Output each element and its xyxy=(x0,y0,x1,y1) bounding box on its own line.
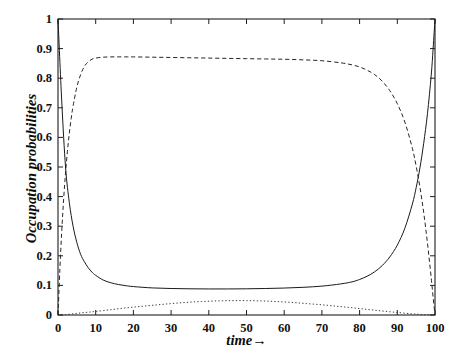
plot-background xyxy=(58,19,435,315)
plot-canvas xyxy=(0,0,460,356)
occupation-probabilities-chart: Occupation probabilities time→ 00.10.20.… xyxy=(0,0,460,356)
